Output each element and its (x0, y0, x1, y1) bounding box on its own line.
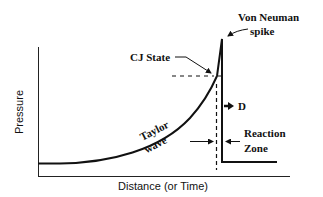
von-neuman-label-line2: spike (250, 25, 275, 37)
detonation-velocity-indicator: D (224, 100, 246, 112)
d-arrow-icon (228, 102, 234, 110)
d-label: D (238, 100, 246, 112)
y-axis-label: Pressure (13, 90, 25, 134)
taylor-wave-curve (38, 76, 217, 164)
cj-state-label: CJ State (130, 51, 170, 63)
detonation-diagram: Pressure Distance (or Time) Von Neuman s… (0, 0, 323, 197)
x-axis-label: Distance (or Time) (118, 180, 208, 192)
reaction-zone-label-line1: Reaction (244, 127, 286, 139)
cj-state-arrow-icon (175, 57, 211, 73)
reaction-zone-label-line2: Zone (244, 142, 268, 154)
von-neuman-arrow-icon (228, 29, 248, 36)
von-neuman-label-line1: Von Neuman (238, 11, 299, 23)
axes (38, 47, 290, 177)
